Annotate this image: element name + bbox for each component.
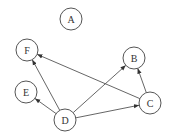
- edge-d-to-c: [76, 105, 139, 118]
- node-d: D: [54, 109, 76, 131]
- node-e: E: [15, 81, 37, 103]
- node-b: B: [123, 47, 145, 69]
- node-label: A: [67, 14, 75, 25]
- nodes: ABCDEF: [15, 8, 161, 131]
- node-label: B: [131, 53, 138, 64]
- node-f: F: [16, 39, 38, 61]
- edge-d-to-f: [32, 60, 60, 111]
- node-label: D: [61, 115, 68, 126]
- edge-d-to-e: [35, 98, 56, 113]
- edge-c-to-b: [138, 68, 147, 92]
- node-label: E: [23, 87, 29, 98]
- node-a: A: [60, 8, 82, 30]
- node-label: C: [147, 98, 154, 109]
- node-c: C: [139, 92, 161, 114]
- node-label: F: [24, 45, 30, 56]
- directed-graph: ABCDEF: [0, 0, 170, 140]
